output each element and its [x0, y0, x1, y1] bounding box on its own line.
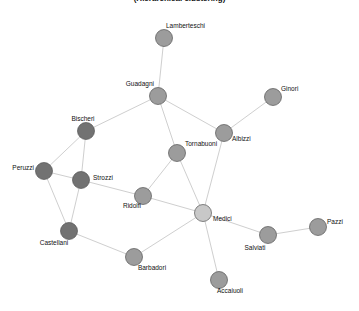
node-strozzi[interactable] [73, 172, 90, 189]
node-bischeri[interactable] [78, 123, 95, 140]
node-label-albizzi: Albizzi [232, 135, 251, 142]
node-tornabuoni[interactable] [169, 145, 186, 162]
node-peruzzi[interactable] [36, 163, 53, 180]
edge-peruzzi-castellani [44, 171, 69, 231]
node-accaiuoli[interactable] [211, 272, 228, 289]
edge-strozzi-ridolfi [81, 180, 143, 196]
node-label-salviati: Salviati [245, 244, 266, 251]
node-label-peruzzi: Peruzzi [12, 164, 34, 171]
edge-guadagni-albizzi [158, 96, 224, 133]
node-label-tornabuoni: Tornabuoni [185, 140, 217, 147]
node-salviati[interactable] [260, 227, 277, 244]
node-albizzi[interactable] [216, 125, 233, 142]
edge-albizzi-ginori [224, 97, 273, 133]
node-label-lamberteschi: Lamberteschi [166, 22, 205, 29]
node-label-bischeri: Bischeri [71, 115, 94, 122]
node-guadagni[interactable] [150, 88, 167, 105]
node-lamberteschi[interactable] [156, 30, 173, 47]
node-medici[interactable] [195, 205, 212, 222]
node-label-ridolfi: Ridolfi [123, 202, 141, 209]
node-label-strozzi: Strozzi [93, 174, 113, 181]
node-label-barbadori: Barbadori [138, 264, 166, 271]
node-ginori[interactable] [265, 89, 282, 106]
node-layer [36, 30, 327, 289]
edge-castellani-barbadori [69, 231, 134, 257]
node-label-accaiuoli: Accaiuoli [217, 287, 243, 294]
node-pazzi[interactable] [310, 219, 327, 236]
node-label-ginori: Ginori [281, 85, 298, 92]
node-label-guadagni: Guadagni [126, 80, 154, 88]
node-castellani[interactable] [61, 223, 78, 240]
node-label-medici: Medici [213, 215, 232, 222]
node-barbadori[interactable] [126, 249, 143, 266]
edge-tornabuoni-medici [177, 153, 203, 213]
node-label-pazzi: Pazzi [327, 218, 343, 225]
edge-ridolfi-medici [143, 196, 203, 213]
edge-guadagni-bischeri [86, 96, 158, 131]
network-graph: LamberteschiGuadagniGinoriBischeriAlbizz… [0, 0, 359, 311]
edge-barbadori-medici [134, 213, 203, 257]
edge-medici-accaiuoli [203, 213, 219, 280]
node-label-castellani: Castellani [40, 239, 69, 246]
